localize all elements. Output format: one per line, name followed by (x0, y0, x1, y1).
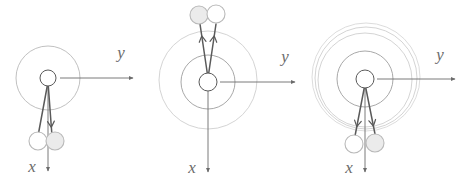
pendulum-bob (29, 132, 47, 150)
x-axis-label: x (27, 157, 36, 176)
pendulum-bob (207, 5, 225, 23)
figure-root: yxyxyx (0, 0, 463, 182)
pendulum-bob (190, 6, 208, 24)
pendulum-rotor-figure: yxyxyx (0, 0, 463, 182)
panels-layer: yxyxyx (16, 5, 455, 177)
y-axis-label: y (279, 47, 289, 66)
hub-circle (199, 73, 217, 91)
hub-circle (356, 70, 374, 88)
pendulum-bob (46, 132, 64, 150)
pendulum-bob (345, 135, 363, 153)
left-panel: yx (16, 43, 133, 176)
right-panel: yx (312, 23, 455, 177)
center-panel: yx (159, 5, 295, 177)
x-axis-label: x (344, 158, 353, 177)
pendulum-rod (200, 24, 208, 78)
y-axis-label: y (434, 45, 444, 64)
x-axis-label: x (187, 158, 196, 177)
hub-circle (40, 70, 56, 86)
pendulum-rod (208, 24, 216, 78)
pendulum-bob (366, 134, 384, 152)
y-axis-label: y (115, 43, 125, 62)
